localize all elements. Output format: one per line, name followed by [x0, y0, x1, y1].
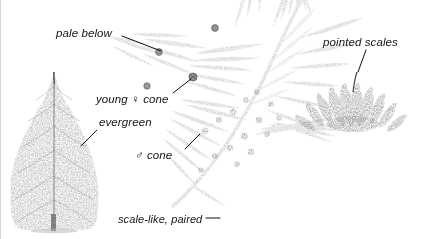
specimen-mature-cone: [256, 72, 409, 144]
conifer-identification-figure: pale below young ♀ cone evergreen ♂ cone…: [0, 0, 430, 239]
label-evergreen: evergreen: [99, 116, 152, 129]
label-scale-like-paired: scale-like, paired: [118, 213, 202, 226]
label-pointed-scales: pointed scales: [323, 36, 398, 49]
label-pale-below: pale below: [56, 27, 112, 40]
label-young-female-cone: young ♀ cone: [96, 93, 169, 106]
specimen-whole-tree: [10, 72, 98, 233]
label-male-cone: ♂ cone: [135, 149, 172, 162]
leader-pointed-scales: [358, 50, 366, 72]
leader-young-female-cone: [173, 79, 191, 93]
